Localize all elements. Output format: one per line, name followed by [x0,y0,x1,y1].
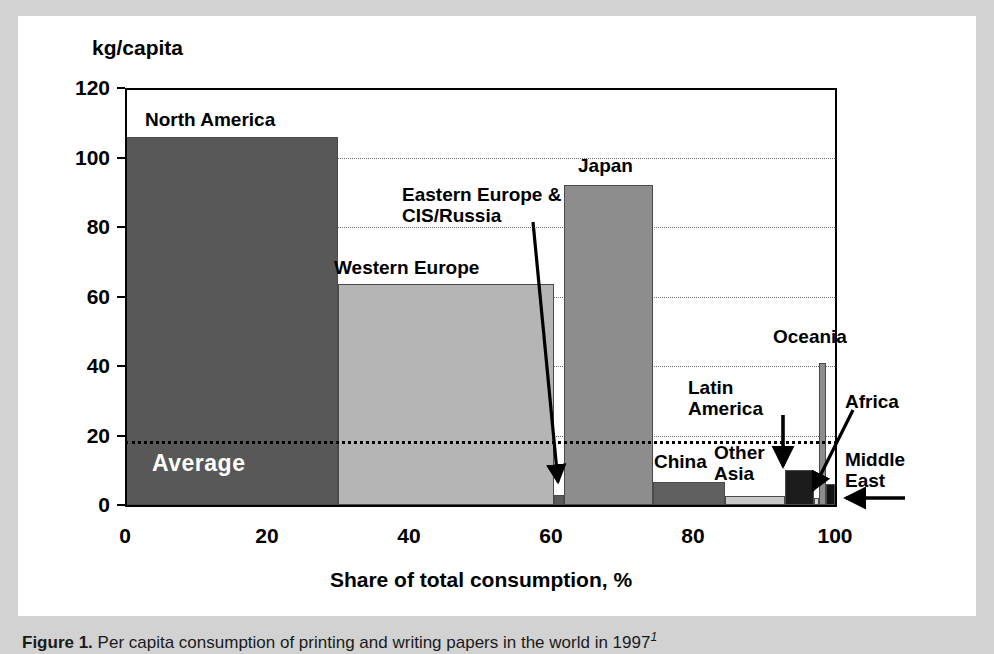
y-tick-120 [117,87,125,89]
figure-caption: Figure 1. Per capita consumption of prin… [22,630,972,653]
series-label-other-asia: Other Asia [714,443,765,484]
series-label-latin-america: Latin America [688,378,763,419]
bar-china [653,482,725,505]
chart-plot-area: kg/capita 020406080100120 020406080100 A… [0,0,994,654]
series-label-western-europe: Western Europe [334,258,479,279]
bar-oceania [819,363,827,505]
y-tick-80 [117,226,125,228]
y-tick-40 [117,365,125,367]
x-axis-line [125,505,837,507]
series-label-china: China [654,452,707,473]
caption-label: Figure 1. [22,633,93,652]
bar-middle-east [826,484,835,505]
plot-frame-top [125,88,837,90]
y-axis-line [125,88,127,507]
bar-eastern-europe-cis-russia [554,495,564,505]
caption-footnote-marker: 1 [650,630,657,644]
series-label-eastern-europe-cis-russia: Eastern Europe & CIS/Russia [402,185,561,226]
figure-root: kg/capita 020406080100120 020406080100 A… [0,0,994,654]
series-label-middle-east: Middle East [845,450,905,491]
y-tick-label-0: 0 [48,494,110,515]
y-tick-label-20: 20 [48,425,110,446]
x-tick-label-20: 20 [227,524,307,548]
x-tick-label-0: 0 [85,524,165,548]
y-tick-100 [117,157,125,159]
y-tick-label-80: 80 [48,216,110,237]
average-line-label: Average [152,450,245,477]
x-tick-label-100: 100 [795,524,875,548]
y-axis-title: kg/capita [92,36,183,60]
x-tick-label-60: 60 [511,524,591,548]
bar-japan [564,185,653,505]
y-tick-label-120: 120 [48,77,110,98]
bar-latin-america [785,470,813,505]
x-tick-label-80: 80 [653,524,733,548]
y-tick-0 [117,504,125,506]
bar-western-europe [338,284,554,505]
series-label-north-america: North America [145,110,275,131]
y-tick-label-100: 100 [48,147,110,168]
y-tick-label-60: 60 [48,286,110,307]
x-tick-label-40: 40 [369,524,449,548]
series-label-japan: Japan [578,156,633,177]
y-tick-label-40: 40 [48,355,110,376]
bar-other-asia [725,496,785,505]
plot-frame-right [835,88,837,507]
x-axis-title: Share of total consumption, % [125,568,837,592]
series-label-oceania: Oceania [773,327,847,348]
caption-text: Per capita consumption of printing and w… [98,633,651,652]
y-tick-60 [117,296,125,298]
y-tick-20 [117,435,125,437]
series-label-africa: Africa [845,392,899,413]
